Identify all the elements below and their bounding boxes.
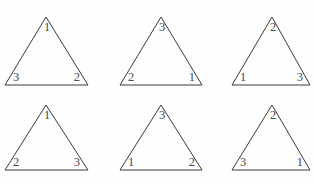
triangle-outline-2: [110, 0, 220, 92]
triangle-6-bottom-right-label: 1: [297, 156, 303, 169]
triangle-cell-top-middle: 3 2 1: [110, 0, 220, 92]
triangle-cell-bottom-left: 1 2 3: [0, 92, 110, 184]
triangle-5-apex-label: 3: [159, 109, 165, 122]
triangle-2-bottom-left-label: 2: [128, 71, 134, 84]
triangle-permutations-figure: 1 3 2 3 2 1 2 1 3 1 2: [0, 0, 314, 184]
triangle-outline-5: [110, 92, 220, 184]
triangle-4-bottom-left-label: 2: [13, 156, 19, 169]
triangle-6-apex-label: 2: [270, 109, 276, 122]
triangle-3-bottom-left-label: 1: [240, 71, 246, 84]
triangle-cell-bottom-right: 2 3 1: [220, 92, 314, 184]
triangle-5-bottom-left-label: 1: [128, 156, 134, 169]
triangle-3-bottom-right-label: 3: [297, 71, 303, 84]
triangle-outline-6: [220, 92, 314, 184]
triangle-2-bottom-right-label: 1: [189, 71, 195, 84]
triangle-3-apex-label: 2: [270, 21, 276, 34]
triangle-grid: 1 3 2 3 2 1 2 1 3 1 2: [0, 0, 314, 184]
triangle-4-bottom-right-label: 3: [74, 156, 80, 169]
triangle-6-bottom-left-label: 3: [240, 156, 246, 169]
triangle-4-apex-label: 1: [44, 109, 50, 122]
triangle-1-bottom-right-label: 2: [74, 71, 80, 84]
triangle-5-bottom-right-label: 2: [189, 156, 195, 169]
triangle-cell-top-right: 2 1 3: [220, 0, 314, 92]
triangle-1-bottom-left-label: 3: [13, 71, 19, 84]
triangle-cell-top-left: 1 3 2: [0, 0, 110, 92]
triangle-1-apex-label: 1: [44, 21, 50, 34]
triangle-outline-4: [0, 92, 110, 184]
triangle-2-apex-label: 3: [159, 21, 165, 34]
triangle-cell-bottom-middle: 3 1 2: [110, 92, 220, 184]
